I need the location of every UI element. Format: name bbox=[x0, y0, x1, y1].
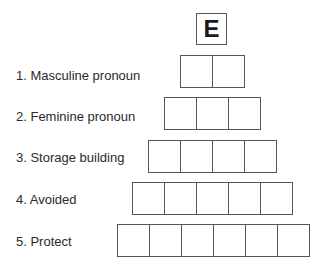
letter-cell[interactable] bbox=[245, 224, 277, 257]
letter-cell[interactable] bbox=[132, 182, 164, 215]
letter-cell[interactable] bbox=[196, 97, 228, 130]
letter-cell[interactable] bbox=[260, 182, 293, 215]
letter-cell[interactable] bbox=[213, 224, 245, 257]
letter-cell[interactable] bbox=[228, 97, 261, 130]
clue-label-3: 3. Storage building bbox=[16, 150, 124, 166]
letter-cell[interactable] bbox=[117, 224, 149, 257]
answer-row-4 bbox=[132, 182, 293, 213]
letter-cell[interactable] bbox=[277, 224, 310, 257]
start-letter-box: E bbox=[196, 13, 227, 45]
answer-row-5 bbox=[117, 224, 310, 255]
answer-row-2 bbox=[164, 97, 261, 128]
letter-cell[interactable] bbox=[180, 140, 212, 173]
letter-cell[interactable] bbox=[212, 55, 245, 88]
letter-cell[interactable] bbox=[149, 224, 181, 257]
answer-row-3 bbox=[148, 140, 277, 171]
answer-row-1 bbox=[180, 55, 245, 86]
letter-cell[interactable] bbox=[180, 55, 212, 88]
letter-cell[interactable] bbox=[181, 224, 213, 257]
letter-cell[interactable] bbox=[164, 182, 196, 215]
letter-cell[interactable] bbox=[244, 140, 277, 173]
letter-cell[interactable] bbox=[228, 182, 260, 215]
letter-cell[interactable] bbox=[164, 97, 196, 130]
clue-label-1: 1. Masculine pronoun bbox=[16, 68, 140, 84]
letter-cell[interactable] bbox=[212, 140, 244, 173]
clue-label-4: 4. Avoided bbox=[16, 192, 76, 208]
letter-cell[interactable] bbox=[148, 140, 180, 173]
clue-label-2: 2. Feminine pronoun bbox=[16, 109, 135, 125]
letter-cell[interactable] bbox=[196, 182, 228, 215]
clue-label-5: 5. Protect bbox=[16, 234, 72, 250]
